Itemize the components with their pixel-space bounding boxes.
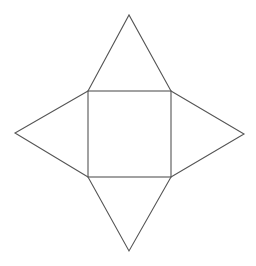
face-bottom [88, 177, 171, 251]
face-left [15, 91, 88, 177]
face-right [171, 91, 244, 177]
face-top [88, 15, 171, 91]
pyramid-net-diagram [0, 0, 256, 266]
base-square [88, 91, 171, 177]
